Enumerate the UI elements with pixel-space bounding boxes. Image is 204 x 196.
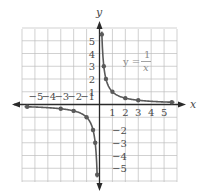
data-point-marker (95, 172, 99, 176)
reciprocal-function-graph: x y 12345−5−4−3−2−112345−2−3−4−5 y = 1 x (0, 0, 204, 196)
data-point-marker (84, 115, 88, 119)
y-tick-label: 4 (89, 49, 95, 60)
x-tick-label: 5 (161, 107, 167, 118)
equation-annotation: y = 1 x (122, 49, 151, 73)
x-tick-label: 3 (135, 107, 141, 118)
data-point-marker (100, 32, 104, 36)
y-tick-label: 3 (89, 61, 95, 72)
y-tick-label: 1 (89, 87, 95, 98)
data-point-marker (123, 96, 127, 100)
y-tick-label: −5 (112, 163, 127, 174)
data-point-marker (91, 128, 95, 132)
x-axis-arrow-right (178, 102, 186, 108)
y-axis-label: y (95, 6, 103, 19)
data-point-marker (110, 90, 114, 94)
equation-numerator: 1 (144, 49, 150, 60)
data-point-marker (170, 100, 174, 104)
x-tick-label: 1 (109, 107, 115, 118)
x-axis-label: x (190, 98, 197, 111)
data-point-marker (102, 64, 106, 68)
data-point-marker (136, 98, 140, 102)
y-tick-label: −2 (112, 125, 127, 136)
y-tick-label: −4 (112, 151, 127, 162)
data-point-marker (104, 77, 108, 81)
data-point-marker (71, 109, 75, 113)
y-tick-label: −3 (112, 138, 127, 149)
y-tick-label: 2 (89, 74, 95, 85)
equation-lhs: y = (122, 56, 140, 67)
x-axis-arrow-left (12, 102, 20, 108)
equation-denominator: x (143, 62, 149, 73)
y-axis-arrow-down (97, 183, 103, 191)
y-tick-label: 5 (89, 36, 95, 47)
y-axis-arrow-up (97, 21, 103, 29)
data-point-marker (93, 141, 97, 145)
x-tick-label: 4 (148, 107, 154, 118)
x-tick-label: 2 (122, 107, 128, 118)
data-point-marker (59, 107, 63, 111)
data-point-marker (25, 105, 29, 109)
